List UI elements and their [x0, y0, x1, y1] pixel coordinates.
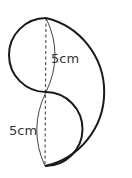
lower-length-label: 5cm	[9, 123, 37, 138]
upper-length-label: 5cm	[51, 51, 79, 66]
upper-semicircle	[9, 18, 46, 92]
lower-semicircle	[45, 92, 83, 166]
lower-measure-arc	[37, 92, 46, 166]
figure: 5cm 5cm	[0, 0, 132, 178]
